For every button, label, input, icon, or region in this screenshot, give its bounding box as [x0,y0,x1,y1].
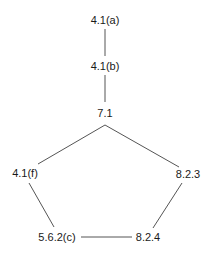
node-4-1a: 4.1(a) [91,15,120,26]
edge-7-1-4-1f [38,125,105,164]
node-8-2-4: 8.2.4 [136,232,160,243]
edge-8-2-3-8-2-4 [153,183,182,228]
edge-4-1f-5-6-2c [29,183,54,227]
node-4-1b: 4.1(b) [91,61,120,72]
edge-7-1-8-2-3 [105,125,179,167]
diagram-edges [0,0,213,256]
node-5-6-2c: 5.6.2(c) [38,232,75,243]
node-7-1: 7.1 [97,108,112,119]
node-8-2-3: 8.2.3 [176,169,200,180]
node-4-1f: 4.1(f) [12,168,38,179]
